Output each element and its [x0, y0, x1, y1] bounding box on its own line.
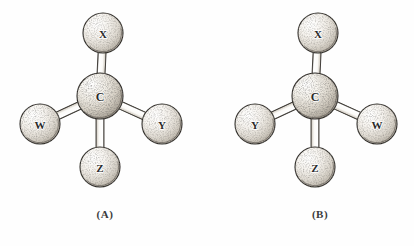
atom-z: Z: [80, 147, 120, 187]
atom-label-z: Z: [311, 162, 318, 174]
bond-c-z: [311, 116, 319, 150]
bond-c-x: [312, 50, 321, 76]
models-canvas: XWYZCXYWZC: [0, 0, 414, 246]
atom-x: X: [83, 13, 123, 53]
atom-label-z: Z: [96, 162, 103, 174]
atom-z: Z: [295, 147, 335, 187]
panel-b-caption: (B): [290, 208, 350, 220]
atom-label-y: Y: [158, 119, 166, 131]
atom-y: Y: [142, 104, 182, 144]
atom-y: Y: [235, 104, 275, 144]
panel-a-caption: (A): [75, 208, 135, 220]
atom-label-w: W: [372, 119, 383, 131]
atom-w: W: [20, 104, 60, 144]
atom-label-x: X: [99, 28, 107, 40]
atom-c: C: [77, 73, 123, 119]
molecular-models-figure: XWYZCXYWZC (A) (B): [0, 0, 414, 246]
atom-x: X: [298, 13, 338, 53]
atom-label-y: Y: [251, 119, 259, 131]
atom-label-c: C: [96, 90, 105, 104]
atom-w: W: [357, 104, 397, 144]
atom-c: C: [292, 73, 338, 119]
atom-label-c: C: [311, 90, 320, 104]
bond-c-z: [96, 116, 104, 150]
atom-label-w: W: [35, 119, 46, 131]
atoms-layer: XWYZCXYWZC: [20, 13, 397, 187]
bond-c-x: [97, 50, 106, 76]
atom-label-x: X: [314, 28, 322, 40]
